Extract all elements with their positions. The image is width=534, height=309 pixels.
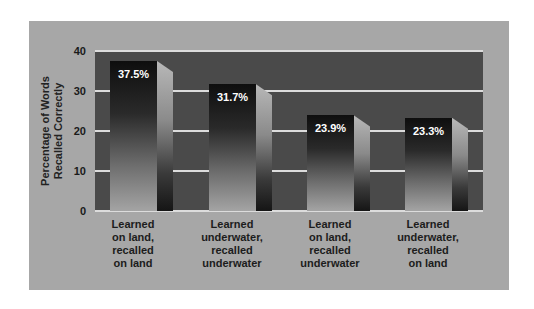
y-axis-label: Percentage of Words Recalled Correctly (39, 76, 65, 186)
y-axis-label-line-2: Recalled Correctly (52, 76, 65, 186)
x-category-label-4: Learnedunderwater,recalledon land (378, 218, 478, 270)
bar-2 (209, 84, 256, 211)
x-category-label-3: Learnedon land,recalledunderwater (280, 218, 380, 270)
bar-value-label-3: 23.9% (307, 122, 354, 134)
y-axis-label-line-1: Percentage of Words (39, 76, 52, 186)
x-category-label-1: Learnedon land,recalledon land (83, 218, 183, 270)
y-tick-40: 40 (60, 45, 86, 57)
bar-side-2 (256, 84, 272, 211)
bar-value-label-4: 23.3% (405, 125, 452, 137)
gridline-40 (95, 50, 483, 52)
bar-side-3 (354, 115, 370, 211)
bar-side-4 (452, 118, 468, 211)
x-category-label-2: Learnedunderwater,recalledunderwater (182, 218, 282, 270)
bar-value-label-1: 37.5% (110, 68, 157, 80)
bar-side-1 (157, 61, 173, 211)
y-tick-0: 0 (60, 205, 86, 217)
bar-value-label-2: 31.7% (209, 91, 256, 103)
bar-1 (110, 61, 157, 211)
